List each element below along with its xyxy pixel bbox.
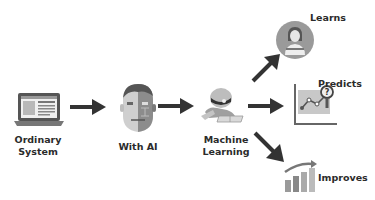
label-line: System	[8, 146, 68, 158]
arrow-down-right-icon	[252, 130, 286, 164]
laptop-icon	[14, 92, 64, 128]
label-line: Ordinary	[8, 134, 68, 146]
arrow-right-icon	[248, 98, 284, 114]
arrow-right-icon	[70, 99, 106, 115]
node-label-improves: Improves	[318, 172, 370, 184]
growth-bars-icon	[283, 158, 319, 192]
label-line: Machine	[196, 134, 256, 146]
node-label-predicts: Predicts	[318, 78, 368, 90]
student-icon	[276, 21, 314, 59]
ai-head-icon	[117, 82, 159, 134]
node-label-with-ai: With AI	[108, 141, 168, 153]
robot-reading-icon	[197, 86, 247, 126]
arrow-right-icon	[158, 98, 194, 114]
node-label-machine-learning: Machine Learning	[196, 134, 256, 158]
label-line: Learning	[196, 146, 256, 158]
node-label-learns: Learns	[310, 12, 358, 24]
node-label-ordinary-system: Ordinary System	[8, 134, 68, 158]
